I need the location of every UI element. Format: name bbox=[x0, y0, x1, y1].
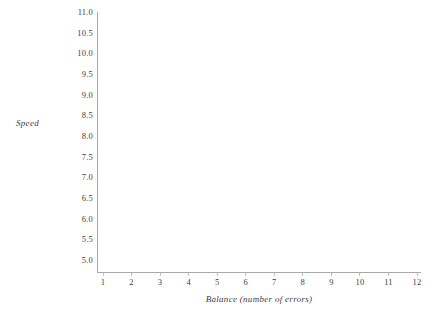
x-tick-group: 1 bbox=[92, 273, 114, 287]
x-tick-group: 6 bbox=[235, 273, 257, 287]
x-tick-mark bbox=[302, 273, 303, 276]
x-tick-mark bbox=[245, 273, 246, 276]
y-tick-label: 5.0 bbox=[55, 255, 93, 265]
y-tick-label: 5.5 bbox=[55, 234, 93, 244]
y-tick-label: 10.5 bbox=[55, 28, 93, 38]
x-tick-label: 8 bbox=[292, 277, 314, 287]
x-tick-label: 1 bbox=[92, 277, 114, 287]
y-tick-label: 10.0 bbox=[55, 48, 93, 58]
x-tick-group: 10 bbox=[349, 273, 371, 287]
x-tick-label: 4 bbox=[178, 277, 200, 287]
x-tick-group: 12 bbox=[406, 273, 428, 287]
x-tick-mark bbox=[160, 273, 161, 276]
x-tick-group: 9 bbox=[320, 273, 342, 287]
x-tick-group: 5 bbox=[206, 273, 228, 287]
x-tick-label: 3 bbox=[149, 277, 171, 287]
x-tick-label: 2 bbox=[121, 277, 143, 287]
x-axis-title: Balance (number of errors) bbox=[97, 294, 421, 304]
x-tick-mark bbox=[274, 273, 275, 276]
y-tick-label: 8.0 bbox=[55, 131, 93, 141]
x-tick-group: 3 bbox=[149, 273, 171, 287]
x-tick-label: 5 bbox=[206, 277, 228, 287]
x-tick-label: 12 bbox=[406, 277, 428, 287]
y-tick-label: 9.5 bbox=[55, 69, 93, 79]
x-tick-mark bbox=[131, 273, 132, 276]
y-tick-label: 11.0 bbox=[55, 7, 93, 17]
x-tick-label: 6 bbox=[235, 277, 257, 287]
plot-area bbox=[98, 12, 421, 272]
y-tick-label: 6.5 bbox=[55, 193, 93, 203]
x-tick-mark bbox=[188, 273, 189, 276]
x-tick-group: 7 bbox=[263, 273, 285, 287]
x-tick-group: 11 bbox=[377, 273, 399, 287]
y-axis-line bbox=[97, 12, 98, 272]
x-tick-label: 10 bbox=[349, 277, 371, 287]
x-tick-mark bbox=[359, 273, 360, 276]
y-tick-label: 7.0 bbox=[55, 172, 93, 182]
y-tick-label: 9.0 bbox=[55, 90, 93, 100]
y-tick-label: 8.5 bbox=[55, 110, 93, 120]
x-tick-mark bbox=[417, 273, 418, 276]
x-tick-mark bbox=[103, 273, 104, 276]
x-tick-label: 7 bbox=[263, 277, 285, 287]
x-tick-group: 4 bbox=[178, 273, 200, 287]
x-tick-mark bbox=[331, 273, 332, 276]
x-tick-mark bbox=[388, 273, 389, 276]
y-axis-tick-labels: 11.010.510.09.59.08.58.07.57.06.56.05.55… bbox=[55, 12, 93, 260]
x-tick-label: 11 bbox=[377, 277, 399, 287]
x-tick-group: 2 bbox=[121, 273, 143, 287]
y-axis-title: Speed bbox=[16, 118, 39, 128]
y-tick-label: 7.5 bbox=[55, 152, 93, 162]
x-tick-label: 9 bbox=[320, 277, 342, 287]
chart-figure: 11.010.510.09.59.08.58.07.57.06.56.05.55… bbox=[0, 0, 435, 320]
x-tick-mark bbox=[217, 273, 218, 276]
x-tick-group: 8 bbox=[292, 273, 314, 287]
x-axis-tick-labels: 123456789101112 bbox=[97, 273, 421, 289]
y-tick-label: 6.0 bbox=[55, 214, 93, 224]
